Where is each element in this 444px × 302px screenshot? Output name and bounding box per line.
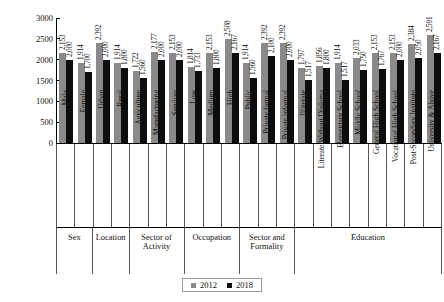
- bar-value-label: 2,000: [285, 41, 294, 56]
- group-label: Location: [93, 234, 129, 243]
- category-label: University & Above: [428, 90, 436, 210]
- group-label: Occupation: [185, 234, 239, 243]
- group-label: Sector and Formality: [240, 234, 294, 252]
- group-axis: SexLocationSector of ActivityOccupationS…: [56, 227, 442, 274]
- category-label: Low: [190, 90, 198, 210]
- category-label: Agriculture: [135, 90, 143, 210]
- bar-value-label: 2,100: [267, 37, 276, 52]
- bar-value-label: 2,153: [205, 35, 214, 50]
- bar-value-label: 2,000: [175, 41, 184, 56]
- bar-value-label: 1,750: [359, 52, 368, 67]
- bar-value-label: 2,050: [414, 39, 423, 54]
- legend-swatch-icon-2018: [227, 283, 232, 288]
- group-label: Sector of Activity: [130, 234, 184, 252]
- category-tick: Vocational High School: [387, 144, 405, 228]
- bar-value-label: 1,800: [322, 50, 331, 65]
- category-label: Urban: [99, 90, 107, 210]
- category-tick: University & Above: [424, 144, 442, 228]
- legend-swatch-icon-2012: [191, 283, 196, 288]
- group-cell: Education: [295, 228, 442, 274]
- category-label: Public: [245, 90, 253, 210]
- category-tick: Elementary School: [332, 144, 350, 228]
- bar-value-label: 1,800: [120, 50, 129, 65]
- bar-value-label: 2,153: [370, 35, 379, 50]
- category-tick: Medium: [204, 144, 222, 228]
- category-tick: Agriculture: [130, 144, 148, 228]
- bar-value-label: 2,384: [407, 25, 416, 40]
- bar-value-label: 1,700: [83, 54, 92, 69]
- category-tick: Urban: [94, 144, 112, 228]
- category-label: Private informal: [282, 90, 290, 210]
- category-label: Male: [62, 90, 70, 210]
- legend-item-2018: 2018: [227, 280, 253, 290]
- category-label: Rural: [117, 90, 125, 210]
- group-cell: Location: [93, 228, 130, 274]
- category-label: Post-Secondary Institute: [410, 90, 418, 210]
- legend-item-2012: 2012: [191, 280, 217, 290]
- bar-value-label: 2,167: [230, 34, 239, 49]
- legend-label-2018: 2018: [236, 280, 253, 290]
- group-label: Sex: [57, 234, 92, 243]
- category-tick: Private formal: [259, 144, 277, 228]
- category-label: Middle School: [355, 90, 363, 210]
- category-tick: General High School: [369, 144, 387, 228]
- category-label: Literate Without Diploma: [318, 90, 326, 210]
- group-cell: Sex: [56, 228, 93, 274]
- group-label: Education: [295, 234, 441, 243]
- bar-value-label: 2,392: [94, 25, 103, 40]
- category-label: High: [227, 90, 235, 210]
- legend-label-2012: 2012: [200, 280, 217, 290]
- category-label: General High School: [373, 90, 381, 210]
- bar-chart: Real Monthly Income in Egyptian Pounds 3…: [0, 0, 444, 302]
- legend: 2012 2018: [182, 278, 262, 292]
- bar-value-label: 2,000: [395, 41, 404, 56]
- category-label: Female: [80, 90, 88, 210]
- group-cell: Occupation: [185, 228, 240, 274]
- y-axis-tick-label: 1500: [36, 76, 57, 86]
- y-axis-tick-label: 500: [40, 117, 57, 127]
- bar-value-label: 1,560: [248, 60, 257, 75]
- bar-value-label: 2,000: [157, 41, 166, 56]
- category-tick: Illiterate: [295, 144, 313, 228]
- bar-value-label: 2,591: [425, 17, 434, 32]
- bar-value-label: 2,392: [278, 25, 287, 40]
- bar-value-label: 1,560: [138, 60, 147, 75]
- category-tick: Low: [185, 144, 203, 228]
- bar-value-label: 2,167: [432, 34, 441, 49]
- category-label: Vocational High School: [392, 90, 400, 210]
- bar-value-label: 1,767: [377, 51, 386, 66]
- category-label: Services: [172, 90, 180, 210]
- y-axis-tick-label: 1000: [36, 96, 57, 106]
- bar-value-label: 2,508: [223, 20, 232, 35]
- category-tick: High: [222, 144, 240, 228]
- category-tick: Private informal: [277, 144, 295, 228]
- category-tick: Rural: [112, 144, 130, 228]
- bar-value-label: 1,517: [340, 61, 349, 76]
- category-label: Private formal: [263, 90, 271, 210]
- category-tick: Male: [56, 144, 75, 228]
- category-label: Elementary School: [337, 90, 345, 210]
- category-tick: Literate Without Diploma: [314, 144, 332, 228]
- y-axis-tick-label: 3000: [36, 13, 57, 23]
- category-label: Medium: [208, 90, 216, 210]
- y-axis-title-wrapper: Real Monthly Income in Egyptian Pounds: [0, 0, 16, 166]
- category-tick: Services: [167, 144, 185, 228]
- group-cell: Sector of Activity: [130, 228, 185, 274]
- bar-value-label: 1,517: [304, 61, 313, 76]
- bar-value-label: 2,000: [65, 41, 74, 56]
- category-tick: Manufacturing: [149, 144, 167, 228]
- group-cell: Sector and Formality: [240, 228, 295, 274]
- y-axis-tick-label: 2500: [36, 34, 57, 44]
- category-axis: MaleFemaleUrbanRuralAgricultureManufactu…: [56, 143, 442, 228]
- y-axis-tick-label: 2000: [36, 55, 57, 65]
- category-label: Illiterate: [300, 90, 308, 210]
- bar-value-label: 2,000: [101, 41, 110, 56]
- bar-value-label: 1,914: [333, 45, 342, 60]
- category-tick: Middle School: [350, 144, 368, 228]
- category-tick: Female: [75, 144, 93, 228]
- category-label: Manufacturing: [154, 90, 162, 210]
- category-tick: Public: [240, 144, 258, 228]
- bar-value-label: 1,914: [241, 45, 250, 60]
- bar-value-label: 1,800: [212, 50, 221, 65]
- bar-value-label: 1,733: [193, 52, 202, 67]
